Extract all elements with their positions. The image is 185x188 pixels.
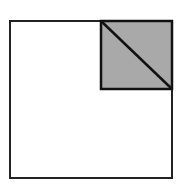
geometry-diagram xyxy=(0,0,185,188)
